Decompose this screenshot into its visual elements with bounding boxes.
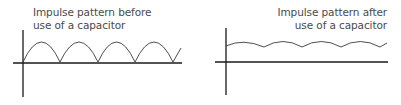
left-pulse-wave xyxy=(23,42,181,62)
left-diagram xyxy=(13,30,182,97)
right-ripple-wave xyxy=(226,42,387,48)
impulse-diagrams xyxy=(0,0,401,105)
right-diagram xyxy=(215,28,388,95)
